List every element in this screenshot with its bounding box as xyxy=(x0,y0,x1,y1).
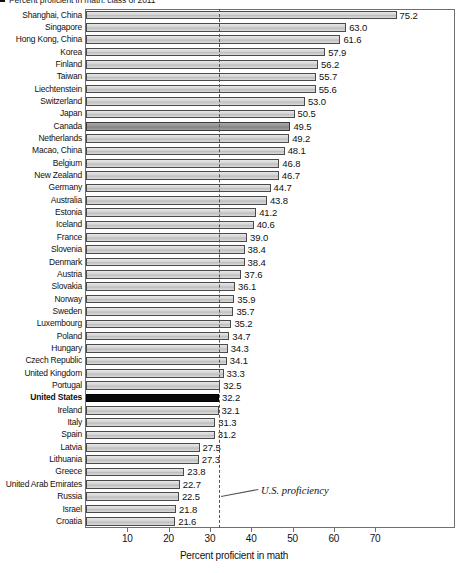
x-axis-tick-label: 50 xyxy=(278,533,308,544)
bar xyxy=(86,443,200,452)
table-row: Shanghai, China75.2 xyxy=(0,10,468,22)
bar xyxy=(86,492,179,501)
bar xyxy=(86,233,247,242)
bar xyxy=(86,221,254,230)
bar-value-label: 21.6 xyxy=(178,516,196,528)
table-row: Finland56.2 xyxy=(0,59,468,71)
bar-value-label: 35.9 xyxy=(237,294,255,306)
bar-value-label: 55.6 xyxy=(319,84,337,96)
bar-category-label: Singapore xyxy=(5,22,82,34)
x-axis-tick-label: 20 xyxy=(154,533,184,544)
table-row: Latvia27.5 xyxy=(0,442,468,454)
bar-category-label: Portugal xyxy=(5,380,82,392)
bar-category-label: Poland xyxy=(5,331,82,343)
x-axis-title: Percent proficient in math xyxy=(0,550,468,561)
bar-category-label: Germany xyxy=(5,182,82,194)
bar-value-label: 41.2 xyxy=(259,207,277,219)
table-row: Croatia21.6 xyxy=(0,516,468,528)
table-row: Portugal32.5 xyxy=(0,380,468,392)
table-row: Australia43.8 xyxy=(0,195,468,207)
table-row: Sweden35.7 xyxy=(0,306,468,318)
bar-category-label: Austria xyxy=(5,269,82,281)
bar-value-label: 34.1 xyxy=(230,355,248,367)
bar-value-label: 33.3 xyxy=(227,368,245,380)
table-row: Slovakia36.1 xyxy=(0,281,468,293)
table-row: Slovenia38.4 xyxy=(0,244,468,256)
bar xyxy=(86,122,290,131)
table-row: Ireland32.1 xyxy=(0,405,468,417)
bar xyxy=(86,320,231,329)
table-row: Austria37.6 xyxy=(0,269,468,281)
bar xyxy=(86,11,397,20)
table-row: Iceland40.6 xyxy=(0,219,468,231)
bar-category-label: Denmark xyxy=(5,257,82,269)
bar-value-label: 38.4 xyxy=(248,244,266,256)
table-row: Belgium46.8 xyxy=(0,158,468,170)
bar-category-label: Slovenia xyxy=(5,244,82,256)
bar-value-label: 56.2 xyxy=(321,59,339,71)
bar-category-label: Australia xyxy=(5,195,82,207)
bar xyxy=(86,418,215,427)
bar xyxy=(86,455,199,464)
bar-value-label: 43.8 xyxy=(270,195,288,207)
bar-category-label: United States xyxy=(5,392,82,404)
bar xyxy=(86,332,229,341)
bar-category-label: Belgium xyxy=(5,158,82,170)
bar xyxy=(86,35,340,44)
bar xyxy=(86,258,245,267)
bar-value-label: 35.7 xyxy=(236,306,254,318)
bar-value-label: 23.8 xyxy=(187,466,205,478)
bar xyxy=(86,171,279,180)
bar-category-label: Iceland xyxy=(5,219,82,231)
x-axis-tick xyxy=(293,528,294,532)
bar-category-label: United Arab Emirates xyxy=(5,479,82,491)
bar xyxy=(86,344,228,353)
bar-category-label: Japan xyxy=(5,108,82,120)
table-row: Lithuania27.3 xyxy=(0,454,468,466)
table-row: Poland34.7 xyxy=(0,331,468,343)
bar-value-label: 53.0 xyxy=(308,96,326,108)
bar xyxy=(86,208,256,217)
bar xyxy=(86,48,325,57)
bar-category-label: Italy xyxy=(5,417,82,429)
bar-category-label: Liechtenstein xyxy=(5,84,82,96)
table-row: Taiwan55.7 xyxy=(0,71,468,83)
bar xyxy=(86,196,267,205)
bar-category-label: United Kingdom xyxy=(5,368,82,380)
table-row: Germany44.7 xyxy=(0,182,468,194)
bar xyxy=(86,381,220,390)
table-row: Japan50.5 xyxy=(0,108,468,120)
bar-value-label: 31.2 xyxy=(218,429,236,441)
bar-category-label: Switzerland xyxy=(5,96,82,108)
table-row: Denmark38.4 xyxy=(0,257,468,269)
bar xyxy=(86,270,241,279)
bar-value-label: 44.7 xyxy=(274,182,292,194)
bar xyxy=(86,505,176,514)
bar-value-label: 36.1 xyxy=(238,281,256,293)
bar-value-label: 55.7 xyxy=(319,71,337,83)
bar-value-label: 32.2 xyxy=(222,392,240,404)
bar-category-label: Slovakia xyxy=(5,281,82,293)
bar-value-label: 39.0 xyxy=(250,232,268,244)
bar xyxy=(86,282,235,291)
bar xyxy=(86,406,219,415)
table-row: France39.0 xyxy=(0,232,468,244)
bar-value-label: 57.9 xyxy=(328,47,346,59)
table-row: United States32.2 xyxy=(0,392,468,404)
bar xyxy=(86,60,318,69)
bar-value-label: 37.6 xyxy=(244,269,262,281)
x-axis-tick-label: 70 xyxy=(360,533,390,544)
bar xyxy=(86,23,346,32)
bar xyxy=(86,134,289,143)
us-proficiency-dashed-line xyxy=(219,9,220,528)
bar-value-label: 34.7 xyxy=(232,331,250,343)
table-row: Czech Republic34.1 xyxy=(0,355,468,367)
bar-value-label: 31.3 xyxy=(218,417,236,429)
x-axis-tick-label: 60 xyxy=(319,533,349,544)
bar-category-label: Taiwan xyxy=(5,71,82,83)
bar-category-label: Hong Kong, China xyxy=(5,34,82,46)
x-axis-tick xyxy=(169,528,170,532)
x-axis-tick-label: 30 xyxy=(195,533,225,544)
bar-category-label: Finland xyxy=(5,59,82,71)
bar-chart: Percent proficient in math: class of 201… xyxy=(0,0,468,573)
